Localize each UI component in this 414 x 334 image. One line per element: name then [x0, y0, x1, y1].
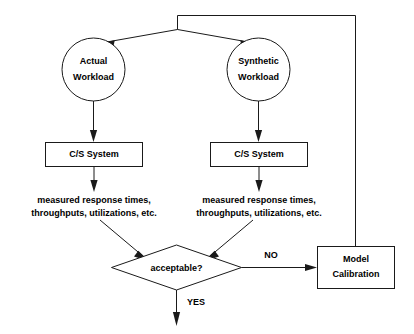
cs-system-left-label: C/S System — [69, 149, 119, 159]
no-branch-arrowhead — [305, 264, 317, 271]
measured-right-line2: throughputs, utilizations, etc. — [196, 208, 322, 218]
measured-left-line2: throughputs, utilizations, etc. — [31, 208, 157, 218]
no-branch-label: NO — [264, 250, 278, 260]
edge-synthetic-to-cs-right — [255, 101, 262, 142]
edge-actual-to-cs-left — [90, 101, 97, 142]
node-cs-system-right: C/S System — [211, 143, 308, 167]
measured-right-line1: measured response times, — [202, 195, 316, 205]
synthetic-workload-label-line2: Workload — [238, 72, 279, 82]
cs-system-right-label: C/S System — [234, 149, 284, 159]
node-measured-results-left: measured response times, throughputs, ut… — [31, 195, 157, 218]
node-actual-workload: Actual Workload — [62, 38, 125, 101]
actual-to-cs-arrowhead — [90, 130, 97, 142]
flowchart-diagram: Actual Workload Synthetic Workload C/S S… — [0, 0, 414, 334]
edge-measured-right-to-decision — [204, 220, 254, 262]
measured-left-to-decision-line — [100, 220, 144, 257]
yes-branch-label: YES — [187, 297, 205, 307]
edge-cs-right-to-measured-right — [255, 167, 262, 192]
flowchart-canvas: Actual Workload Synthetic Workload C/S S… — [0, 0, 414, 334]
node-model-calibration: Model Calibration — [318, 247, 395, 289]
cs-right-to-measured-arrowhead — [255, 180, 262, 192]
edge-no-branch: NO — [242, 250, 318, 271]
actual-workload-label-line2: Workload — [73, 72, 114, 82]
synthetic-to-cs-arrowhead — [255, 130, 262, 142]
node-measured-results-right: measured response times, throughputs, ut… — [196, 195, 322, 218]
node-decision-acceptable: acceptable? — [112, 245, 242, 290]
edge-yes-branch: YES — [173, 290, 205, 326]
edge-cs-left-to-measured-left — [90, 167, 97, 192]
model-calibration-box — [318, 247, 395, 289]
decision-label: acceptable? — [150, 263, 202, 273]
edge-split-to-actual — [104, 30, 178, 48]
yes-branch-arrowhead — [173, 312, 180, 326]
actual-workload-label-line1: Actual — [80, 56, 108, 66]
edge-measured-left-to-decision — [100, 220, 150, 262]
node-synthetic-workload: Synthetic Workload — [227, 38, 290, 101]
split-left-line — [104, 30, 178, 43]
synthetic-workload-label-line1: Synthetic — [238, 56, 279, 66]
split-right-line — [178, 30, 252, 43]
model-calibration-label-line1: Model — [343, 254, 369, 264]
measured-left-line1: measured response times, — [37, 195, 151, 205]
model-calibration-label-line2: Calibration — [332, 269, 379, 279]
measured-right-to-decision-line — [209, 220, 253, 257]
cs-left-to-measured-arrowhead — [90, 180, 97, 192]
node-cs-system-left: C/S System — [46, 143, 143, 167]
synthetic-workload-circle — [227, 38, 290, 101]
actual-workload-circle — [62, 38, 125, 101]
